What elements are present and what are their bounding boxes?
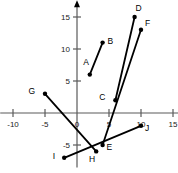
data-point-g bbox=[43, 92, 47, 96]
data-point-e bbox=[100, 143, 104, 147]
y-tick-label: 15 bbox=[61, 13, 70, 22]
data-point-i bbox=[62, 156, 66, 160]
point-label-i: I bbox=[53, 151, 55, 161]
x-tick-label: 15 bbox=[169, 120, 178, 129]
point-label-g: G bbox=[28, 86, 35, 96]
data-point-d bbox=[132, 15, 136, 19]
point-label-b: B bbox=[108, 36, 114, 46]
point-label-c: C bbox=[99, 92, 105, 102]
segments bbox=[45, 17, 141, 158]
data-point-a bbox=[88, 72, 92, 76]
data-point-f bbox=[139, 28, 143, 32]
point-label-d: D bbox=[136, 3, 142, 13]
segment-AB bbox=[90, 43, 103, 75]
x-tick-label: -10 bbox=[7, 120, 19, 129]
y-axis-arrow-icon bbox=[74, 0, 80, 7]
data-points bbox=[43, 15, 143, 160]
data-point-j bbox=[139, 124, 143, 128]
point-label-a: A bbox=[83, 57, 89, 67]
point-label-f: F bbox=[145, 18, 150, 28]
segment-GH bbox=[45, 94, 96, 152]
x-tick-label: -5 bbox=[41, 120, 49, 129]
y-axis-ticks: 15105-5 bbox=[61, 13, 81, 150]
y-tick-label: 5 bbox=[66, 77, 71, 86]
coordinate-plane-chart: -10-5051015 15105-5 ABCDEFGHIJ bbox=[0, 0, 178, 173]
y-tick-label: -5 bbox=[63, 141, 71, 150]
point-label-j: J bbox=[145, 123, 149, 133]
x-axis-ticks: -10-5051015 bbox=[7, 109, 178, 129]
point-label-e: E bbox=[107, 142, 113, 152]
data-point-h bbox=[94, 149, 98, 153]
data-point-c bbox=[113, 98, 117, 102]
chart-canvas: -10-5051015 15105-5 ABCDEFGHIJ bbox=[0, 0, 178, 173]
point-label-h: H bbox=[89, 154, 95, 164]
y-tick-label: 10 bbox=[61, 45, 70, 54]
data-point-b bbox=[100, 40, 104, 44]
segment-IJ bbox=[64, 126, 141, 158]
